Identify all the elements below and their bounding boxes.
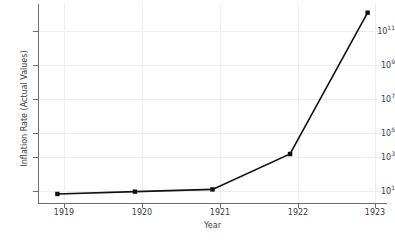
series-markers: [55, 11, 370, 197]
data-point-marker: [133, 189, 137, 193]
data-point-marker: [288, 152, 292, 156]
chart-figure: 1011 109 107 105 103 101 1919 1920 1921 …: [0, 0, 395, 243]
data-point-marker: [210, 187, 214, 191]
data-point-marker: [365, 11, 369, 15]
series-line: [57, 13, 367, 194]
series-layer: [0, 0, 395, 243]
data-point-marker: [55, 192, 59, 196]
